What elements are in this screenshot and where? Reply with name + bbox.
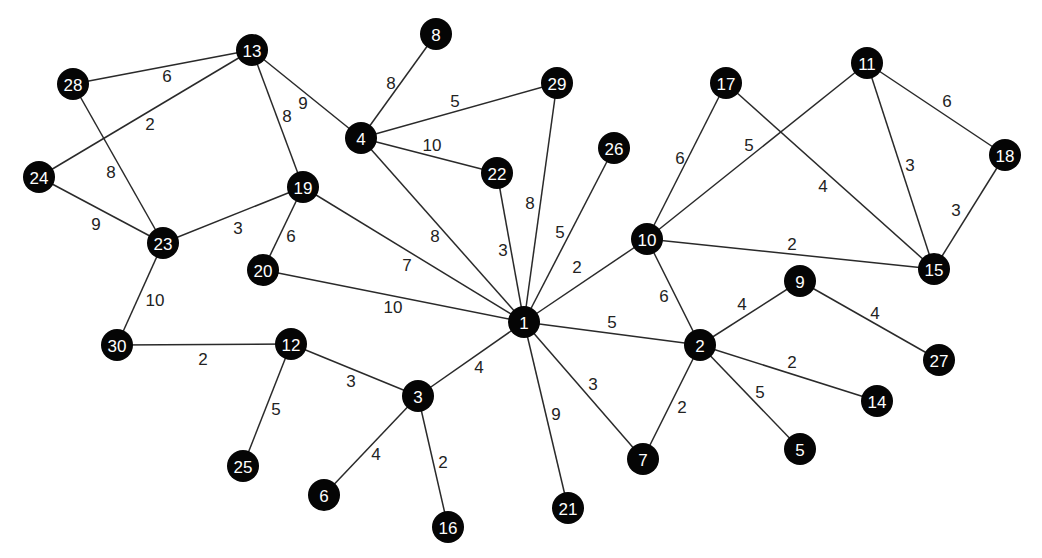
node-29: 29 — [541, 67, 573, 99]
node-23: 23 — [147, 227, 179, 259]
edge-weight-label: 2 — [438, 453, 447, 472]
node-18: 18 — [989, 139, 1021, 171]
node-label: 13 — [243, 42, 262, 61]
edge-weight-label: 6 — [675, 149, 684, 168]
edge-weight-label: 5 — [744, 136, 753, 155]
edge-weight-label: 5 — [755, 383, 764, 402]
node-25: 25 — [227, 450, 259, 482]
edge-26-1 — [524, 148, 614, 322]
weighted-graph-diagram: 6298893106710851083852543965264633442522… — [0, 0, 1042, 558]
node-label: 2 — [695, 337, 704, 356]
node-label: 14 — [868, 393, 887, 412]
edge-weight-label: 4 — [474, 358, 483, 377]
edge-weight-label: 6 — [659, 287, 668, 306]
node-label: 4 — [356, 130, 365, 149]
node-label: 22 — [488, 165, 507, 184]
node-label: 30 — [108, 337, 127, 356]
edge-weight-label: 8 — [430, 227, 439, 246]
node-label: 11 — [858, 55, 876, 74]
node-22: 22 — [481, 157, 513, 189]
node-27: 27 — [923, 344, 955, 376]
node-label: 10 — [638, 231, 657, 250]
edge-weight-label: 6 — [942, 92, 951, 111]
edge-weight-label: 3 — [951, 201, 960, 220]
node-9: 9 — [784, 265, 816, 297]
node-26: 26 — [598, 132, 630, 164]
node-4: 4 — [345, 122, 377, 154]
node-5: 5 — [784, 433, 816, 465]
node-label: 27 — [930, 352, 949, 371]
edge-weight-label: 3 — [233, 219, 242, 238]
node-label: 6 — [319, 487, 328, 506]
edge-weight-label: 5 — [271, 400, 280, 419]
edge-weight-label: 6 — [162, 67, 171, 86]
edge-weight-label: 8 — [386, 74, 395, 93]
node-label: 5 — [795, 441, 804, 460]
node-14: 14 — [861, 385, 893, 417]
edge-weight-label: 9 — [298, 94, 307, 113]
node-label: 24 — [30, 169, 49, 188]
node-label: 17 — [717, 75, 736, 94]
node-label: 12 — [282, 336, 301, 355]
node-6: 6 — [308, 479, 340, 511]
edge-19-1 — [303, 187, 524, 322]
node-21: 21 — [552, 492, 584, 524]
node-13: 13 — [236, 34, 268, 66]
edge-weight-label: 9 — [91, 215, 100, 234]
edge-2-7 — [643, 345, 700, 459]
node-1: 1 — [508, 306, 540, 338]
edge-weight-label: 8 — [106, 163, 115, 182]
node-20: 20 — [247, 254, 279, 286]
edge-weights-layer: 6298893106710851083852543965264633442522… — [91, 67, 960, 472]
edge-weight-label: 4 — [870, 304, 879, 323]
node-label: 1 — [519, 314, 528, 333]
node-label: 7 — [638, 451, 647, 470]
edge-weight-label: 2 — [787, 353, 796, 372]
node-label: 26 — [605, 140, 624, 159]
node-label: 19 — [294, 179, 313, 198]
edge-weight-label: 8 — [525, 194, 534, 213]
node-label: 3 — [413, 388, 422, 407]
edge-weight-label: 4 — [818, 177, 827, 196]
edge-10-2 — [647, 239, 700, 345]
edge-weight-label: 3 — [588, 375, 597, 394]
edge-weight-label: 7 — [402, 256, 411, 275]
edge-weight-label: 3 — [346, 372, 355, 391]
edge-weight-label: 2 — [145, 115, 154, 134]
edge-weight-label: 10 — [423, 136, 442, 155]
edge-weight-label: 4 — [371, 445, 380, 464]
node-label: 8 — [431, 26, 440, 45]
node-16: 16 — [432, 511, 464, 543]
edge-1-3 — [418, 322, 524, 396]
node-label: 21 — [559, 500, 578, 519]
edge-weight-label: 10 — [384, 298, 403, 317]
node-7: 7 — [627, 443, 659, 475]
node-24: 24 — [23, 161, 55, 193]
node-12: 12 — [275, 328, 307, 360]
edge-weight-label: 5 — [555, 223, 564, 242]
node-label: 28 — [64, 76, 83, 95]
edges-layer — [39, 34, 1005, 527]
node-19: 19 — [287, 171, 319, 203]
edge-10-17 — [647, 83, 726, 239]
edge-1-10 — [524, 239, 647, 322]
edge-weight-label: 2 — [572, 258, 581, 277]
edge-1-7 — [524, 322, 643, 459]
edge-weight-label: 8 — [282, 107, 291, 126]
edge-12-25 — [243, 344, 291, 466]
edge-2-9 — [700, 281, 800, 345]
edge-weight-label: 2 — [787, 235, 796, 254]
edge-weight-label: 10 — [146, 291, 165, 310]
node-10: 10 — [631, 223, 663, 255]
node-11: 11 — [851, 47, 883, 79]
node-label: 29 — [548, 75, 567, 94]
edge-18-15 — [934, 155, 1005, 269]
edge-weight-label: 9 — [551, 405, 560, 424]
edge-4-8 — [361, 34, 436, 138]
edge-1-21 — [524, 322, 568, 508]
edge-weight-label: 2 — [677, 398, 686, 417]
edge-weight-label: 3 — [498, 241, 507, 260]
node-label: 25 — [234, 458, 253, 477]
node-2: 2 — [684, 329, 716, 361]
node-label: 23 — [154, 235, 173, 254]
